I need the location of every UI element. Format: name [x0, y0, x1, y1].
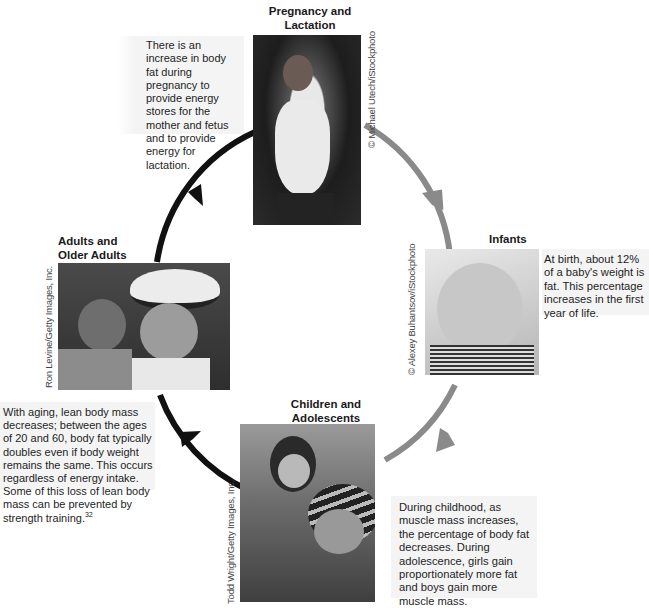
stage-title-adults: Adults and Older Adults — [58, 234, 127, 262]
arrowhead-to-children — [436, 428, 455, 452]
photo-infants — [425, 249, 539, 375]
description-text: With aging, lean body mass decreases; be… — [3, 406, 153, 524]
stage-title-infants: Infants — [489, 232, 527, 246]
description-adults: With aging, lean body mass decreases; be… — [0, 402, 155, 490]
stage-title-children: Children and Adolescents — [270, 397, 382, 425]
photo-credit-children: Todd Wright/Getty Images, Inc. — [225, 480, 236, 604]
description-pregnancy: There is an increase in body fat during … — [118, 36, 244, 134]
photo-children — [240, 424, 375, 602]
title-line: Lactation — [248, 18, 372, 32]
photo-credit-adults: Ron Levine/Getty Images, Inc. — [43, 266, 54, 388]
title-line: Pregnancy and — [248, 4, 372, 18]
footnote-ref: 32 — [85, 511, 93, 518]
description-children: During childhood, as muscle mass increas… — [391, 496, 537, 598]
arc-children-to-adults — [160, 395, 248, 490]
arc-pregnancy-to-infants — [365, 125, 450, 255]
arrowhead-to-infants — [420, 186, 447, 210]
photo-pregnancy — [253, 35, 361, 225]
stage-title-pregnancy: Pregnancy and Lactation — [248, 4, 372, 32]
photo-credit-infants: © Alexey Buhantsov/iStockphoto — [406, 244, 417, 375]
title-line: Adults and — [58, 234, 127, 248]
title-line: Older Adults — [58, 248, 127, 262]
description-infants: At birth, about 12% of a baby's weight i… — [542, 249, 649, 315]
photo-credit-pregnancy: © Michael Utech/iStockphoto — [366, 31, 377, 148]
photo-adults — [58, 263, 230, 390]
title-line: Adolescents — [270, 411, 382, 425]
title-line: Children and — [270, 397, 382, 411]
